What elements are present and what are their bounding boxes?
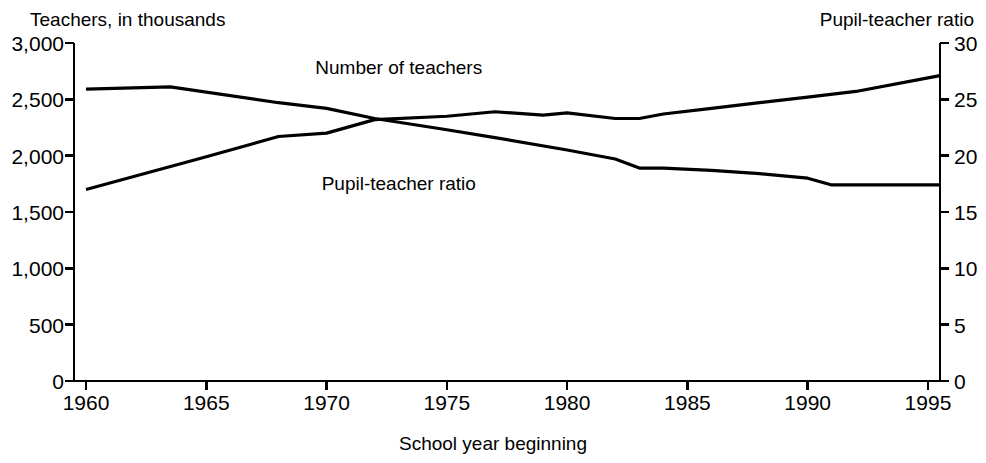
plot-area xyxy=(0,0,986,463)
chart-figure: Teachers, in thousands Pupil-teacher rat… xyxy=(0,0,986,463)
data-series xyxy=(86,76,940,190)
series-line-pupil-teacher-ratio xyxy=(86,87,940,185)
